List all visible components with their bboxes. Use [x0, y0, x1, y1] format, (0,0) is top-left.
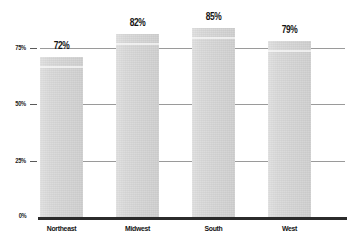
bar-south[interactable]	[192, 28, 235, 218]
category-label-west: West	[271, 224, 308, 233]
y-tick-mark-25	[30, 161, 37, 162]
y-tick-75: 75%	[0, 44, 26, 52]
y-tick-50: 50%	[0, 100, 26, 108]
bar-value-midwest: 82%	[119, 17, 155, 28]
axis-baseline	[38, 217, 347, 220]
bar-value-west: 79%	[271, 24, 307, 35]
y-tick-label-25: 25%	[15, 157, 26, 165]
y-tick-0: 0%	[0, 212, 26, 220]
y-tick-label-0: 0%	[18, 212, 26, 220]
bar-highlight	[268, 50, 311, 52]
plot-area	[40, 8, 345, 218]
bar-midwest[interactable]	[116, 34, 159, 218]
bar-highlight	[192, 37, 235, 39]
bar-chart: 75% 50% 25% 0% 72% 82% 85% 79% Northeast…	[0, 0, 359, 250]
y-tick-label-50: 50%	[15, 100, 26, 108]
bar-value-northeast: 72%	[43, 40, 79, 51]
category-label-midwest: Midwest	[119, 224, 156, 233]
bar-value-south: 85%	[195, 11, 231, 22]
bar-west[interactable]	[268, 41, 311, 218]
category-label-south: South	[195, 224, 232, 233]
bar-highlight	[40, 66, 83, 68]
bar-northeast[interactable]	[40, 57, 83, 218]
y-tick-mark-50	[30, 104, 37, 105]
category-label-northeast: Northeast	[43, 224, 80, 233]
y-tick-mark-75	[30, 48, 37, 49]
y-tick-label-75: 75%	[15, 44, 26, 52]
y-tick-25: 25%	[0, 157, 26, 165]
bar-highlight	[116, 43, 159, 45]
